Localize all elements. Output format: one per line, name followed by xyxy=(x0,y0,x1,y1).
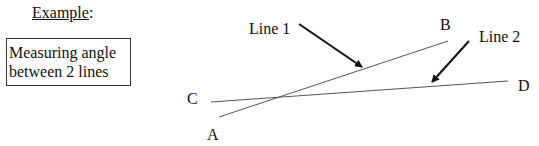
line-2-label: Line 2 xyxy=(479,28,520,46)
point-c-label: C xyxy=(187,90,198,108)
point-a-label: A xyxy=(207,126,219,144)
point-b-label: B xyxy=(440,16,451,34)
line-2-arrow xyxy=(432,41,469,82)
line-1-label: Line 1 xyxy=(249,20,290,38)
line-ab xyxy=(219,41,448,117)
line-1-arrow xyxy=(299,24,362,67)
point-d-label: D xyxy=(518,77,530,95)
line-cd xyxy=(211,81,508,102)
